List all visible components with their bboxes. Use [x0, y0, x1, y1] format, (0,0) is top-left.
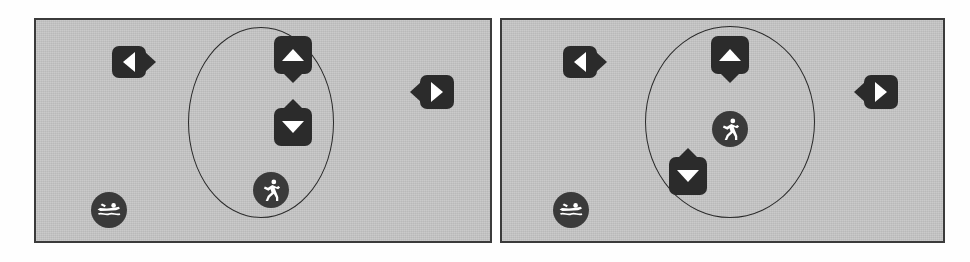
- arrow-down-pin[interactable]: [669, 157, 707, 195]
- triangle-right-icon: [875, 82, 887, 102]
- arrow-left-pin[interactable]: [563, 46, 597, 78]
- runner-icon[interactable]: [253, 172, 289, 208]
- right-panel[interactable]: [500, 18, 945, 243]
- arrow-down-pin[interactable]: [274, 108, 312, 146]
- triangle-up-icon: [282, 49, 304, 61]
- arrow-left-pin[interactable]: [112, 46, 146, 78]
- swimmer-icon[interactable]: [91, 192, 127, 228]
- scene-stage: [0, 0, 970, 262]
- triangle-left-icon: [123, 52, 135, 72]
- arrow-right-pin[interactable]: [864, 75, 898, 109]
- arrow-up-pin[interactable]: [274, 36, 312, 74]
- arrow-right-pin[interactable]: [420, 75, 454, 109]
- arrow-up-pin[interactable]: [711, 36, 749, 74]
- runner-icon[interactable]: [712, 111, 748, 147]
- triangle-up-icon: [719, 49, 741, 61]
- triangle-down-icon: [282, 121, 304, 133]
- left-panel[interactable]: [34, 18, 492, 243]
- triangle-down-icon: [677, 170, 699, 182]
- triangle-right-icon: [431, 82, 443, 102]
- triangle-left-icon: [574, 52, 586, 72]
- swimmer-icon[interactable]: [553, 192, 589, 228]
